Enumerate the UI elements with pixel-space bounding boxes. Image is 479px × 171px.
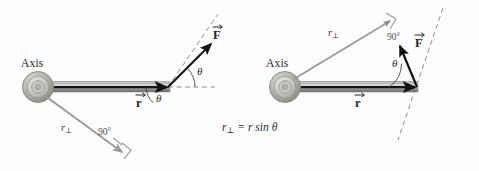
r-vector-letter-left: r [136, 96, 142, 110]
r-perp-vector-right [294, 21, 390, 79]
axis-hub-core-right [282, 84, 287, 89]
r-vector-label-left: r [136, 97, 142, 110]
force-vector-letter-right: F [415, 36, 423, 50]
right-angle-leader-left [113, 138, 122, 145]
theta-label-force-left: θ [197, 66, 202, 77]
right-angle-marker-right [386, 13, 396, 29]
force-vector-arrow-right [400, 46, 417, 87]
right-angle-label-right: 90° [387, 33, 400, 43]
theta-arc-force-left [188, 68, 196, 87]
right-angle-label-left: 90° [98, 128, 111, 138]
r-perp-label-right: r⊥ [328, 28, 339, 40]
theta-label-right: θ [392, 58, 397, 69]
caption-equals-expression: = r sin [234, 121, 268, 133]
axis-label-left: Axis [21, 58, 44, 70]
figure-root: Axis r F θ θ r⊥ 90° r⊥= r sinθ Axis [0, 0, 479, 171]
r-perp-vector-left [44, 95, 122, 152]
r-perp-subscript-right: ⊥ [332, 31, 339, 40]
caption-theta-symbol: θ [269, 121, 278, 133]
r-vector-letter-right: r [355, 96, 361, 110]
force-vector-label-left: F [213, 29, 221, 42]
right-angle-marker-left [122, 143, 131, 159]
r-perp-label-left: r⊥ [61, 123, 72, 135]
force-vector-label-right: F [415, 37, 423, 50]
left-panel-group [23, 14, 219, 159]
r-perp-subscript-left: ⊥ [65, 126, 72, 135]
force-line-of-action-dashed-right [398, 8, 443, 140]
theta-label-rod-left: θ [156, 93, 161, 104]
r-vector-label-right: r [355, 97, 361, 110]
right-panel-group [270, 8, 444, 140]
torque-diagram-canvas [0, 0, 479, 171]
caption-equation: r⊥= r sinθ [222, 122, 277, 136]
force-vector-arrow-left [168, 44, 211, 87]
axis-label-right: Axis [266, 58, 289, 70]
force-vector-letter-left: F [213, 28, 221, 42]
axis-hub-core-left [35, 84, 40, 89]
